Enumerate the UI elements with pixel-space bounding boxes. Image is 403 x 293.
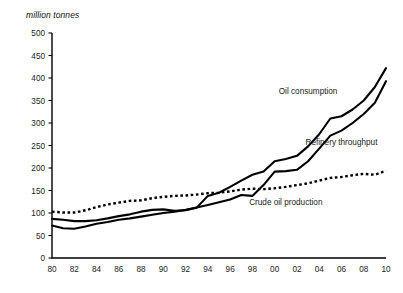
x-axis-tick-labels: 80828486889092949698000204060810 bbox=[47, 265, 391, 274]
series-label-refinery-throughput: Refinery throughput bbox=[306, 138, 379, 147]
series-line-crude-oil-production bbox=[52, 171, 386, 213]
series-label-oil-consumption: Oil consumption bbox=[279, 87, 338, 96]
x-tick-label: 10 bbox=[381, 265, 391, 274]
x-tick-label: 88 bbox=[137, 265, 147, 274]
y-tick-label: 300 bbox=[31, 119, 45, 128]
y-tick-label: 400 bbox=[31, 74, 45, 83]
y-tick-label: 250 bbox=[31, 142, 45, 151]
x-tick-label: 00 bbox=[270, 265, 280, 274]
y-tick-label: 150 bbox=[31, 187, 45, 196]
x-tick-label: 06 bbox=[337, 265, 347, 274]
x-tick-label: 84 bbox=[92, 265, 102, 274]
line-chart-plot: 500450400350300250200150100500 808284868… bbox=[0, 0, 403, 293]
y-tick-label: 200 bbox=[31, 164, 45, 173]
y-tick-label: 450 bbox=[31, 52, 45, 61]
y-axis-tick-labels: 500450400350300250200150100500 bbox=[31, 29, 45, 263]
y-tick-label: 350 bbox=[31, 97, 45, 106]
x-tick-label: 80 bbox=[47, 265, 57, 274]
y-tick-label: 0 bbox=[40, 254, 45, 263]
y-tick-label: 100 bbox=[31, 209, 45, 218]
x-tick-label: 92 bbox=[181, 265, 191, 274]
y-tick-label: 50 bbox=[36, 232, 46, 241]
x-tick-label: 08 bbox=[359, 265, 369, 274]
x-tick-label: 98 bbox=[248, 265, 258, 274]
x-tick-label: 90 bbox=[159, 265, 169, 274]
x-tick-label: 96 bbox=[226, 265, 236, 274]
series-label-crude-oil-production: Crude oil production bbox=[249, 198, 323, 207]
y-tick-label: 500 bbox=[31, 29, 45, 38]
series-line-refinery-throughput bbox=[52, 81, 386, 229]
x-tick-label: 86 bbox=[114, 265, 124, 274]
x-tick-label: 04 bbox=[315, 265, 325, 274]
x-tick-label: 94 bbox=[203, 265, 213, 274]
x-tick-label: 02 bbox=[292, 265, 302, 274]
chart-container: million tonnes 5004504003503002502001501… bbox=[0, 0, 403, 293]
x-tick-label: 82 bbox=[70, 265, 80, 274]
